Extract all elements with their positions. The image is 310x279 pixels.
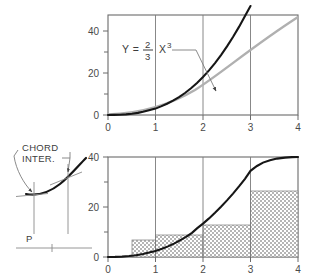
formula-lhs: Y = <box>122 43 139 55</box>
lower-xtick-3: 3 <box>248 264 254 275</box>
bar-2 <box>156 235 204 257</box>
upper-ytick-20: 20 <box>88 68 100 79</box>
upper-xtick-4: 4 <box>295 122 301 133</box>
upper-x-ticks <box>108 115 298 120</box>
bar-3 <box>203 225 251 257</box>
chord-intercept-detail: CHORD INTER. P <box>0 138 100 263</box>
lower-xtick-2: 2 <box>200 264 206 275</box>
formula-variable: X <box>159 43 167 55</box>
formula-denominator: 3 <box>145 51 151 62</box>
bar-4 <box>251 191 299 257</box>
formula-exponent: 3 <box>167 41 172 50</box>
upper-xtick-3: 3 <box>248 122 254 133</box>
upper-y-ticks <box>103 31 108 115</box>
lower-x-ticks <box>108 257 298 262</box>
upper-xtick-1: 1 <box>153 122 159 133</box>
upper-xtick-0: 0 <box>105 122 111 133</box>
detail-baseline <box>16 244 92 252</box>
figure-canvas: Y = 2 3 X 3 0 20 40 0 1 2 3 4 <box>0 0 310 279</box>
upper-ytick-0: 0 <box>93 110 99 121</box>
upper-chart: Y = 2 3 X 3 0 20 40 0 1 2 3 4 <box>0 0 310 135</box>
lower-y-ticks <box>103 157 108 257</box>
detail-ordinates <box>34 164 68 234</box>
upper-ytick-40: 40 <box>88 26 100 37</box>
detail-point-label: P <box>26 233 33 244</box>
upper-xtick-2: 2 <box>200 122 206 133</box>
detail-label-line1: CHORD <box>22 142 58 153</box>
lower-xtick-1: 1 <box>153 264 159 275</box>
detail-label-line2: INTER. <box>22 153 55 164</box>
formula-numerator: 2 <box>145 39 151 50</box>
lower-xtick-4: 4 <box>295 264 301 275</box>
lower-xtick-0: 0 <box>105 264 111 275</box>
